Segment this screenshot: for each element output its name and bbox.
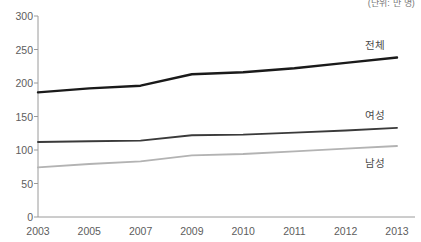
x-axis: 20032005200720092010201120122013: [0, 0, 421, 242]
series-label-female: 여성: [365, 106, 385, 121]
x-tick-label: 2010: [231, 225, 254, 237]
x-tick-label: 2005: [78, 225, 101, 237]
x-tick-label: 2007: [129, 225, 152, 237]
x-tick-label: 2011: [283, 225, 306, 237]
series-label-total: 전체: [365, 36, 385, 51]
x-tick-label: 2009: [180, 225, 203, 237]
line-chart: (단위: 만 명) 050100150200250300 20032005200…: [0, 0, 421, 242]
x-tick-label: 2013: [385, 225, 408, 237]
x-tick-label: 2012: [334, 225, 357, 237]
x-tick-label: 2003: [26, 225, 49, 237]
series-label-male: 남성: [365, 154, 385, 169]
